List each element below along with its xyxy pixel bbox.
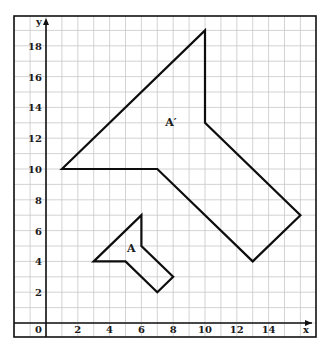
y-tick-label: 4 [35,256,42,267]
coordinate-grid: 2468101214246810121416180xy AA′ [0,0,330,349]
shape-label-A-prime: A′ [164,116,177,129]
shape-label-A: A [126,242,136,255]
x-tick-label: 2 [74,324,81,335]
y-tick-label: 2 [35,287,42,298]
y-tick-label: 16 [28,72,42,83]
y-tick-label: 6 [35,226,42,237]
y-tick-label: 8 [35,195,42,206]
x-axis-label: x [303,324,310,335]
y-tick-label: 10 [28,164,42,175]
x-tick-label: 12 [230,324,244,335]
x-tick-label: 10 [198,324,212,335]
x-tick-label: 14 [262,324,276,335]
y-tick-label: 12 [28,133,42,144]
y-tick-label: 18 [28,41,42,52]
y-tick-label: 14 [28,102,42,113]
y-axis-arrow-icon [43,18,49,25]
shapes: AA′ [62,30,301,292]
x-tick-label: 4 [106,324,113,335]
x-tick-label: 6 [138,324,145,335]
origin-label: 0 [35,324,42,335]
y-axis-label: y [35,16,43,27]
shape-A-prime [62,30,301,261]
axes [14,18,312,337]
x-tick-label: 8 [170,324,177,335]
